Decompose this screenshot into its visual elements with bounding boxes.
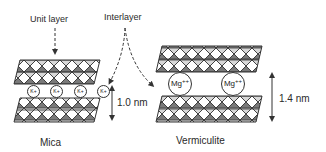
vermiculite-lower-layer [156,96,262,122]
vermiculite-spacing-arrow [269,72,275,122]
vermiculite-upper-layer [156,46,262,72]
vermiculite-spacing-label: 1.4 nm [279,93,310,104]
interlayer-arrow-right [125,28,152,85]
vermiculite-label: Vermiculite [176,135,225,146]
mica-lower-layer [14,98,100,122]
magnesium-ion: Mg++ [221,72,245,96]
mica-label: Mica [40,137,61,148]
magnesium-ion: Mg++ [168,72,192,96]
interlayer-arrow-left [110,28,125,82]
mica-spacing-label: 1.0 nm [117,97,148,108]
potassium-ion: K+ [50,85,63,98]
potassium-ion: K+ [74,85,87,98]
potassium-ion: K+ [27,85,40,98]
mica-upper-layer [14,60,100,84]
unit-layer-label: Unit layer [30,14,68,24]
interlayer-label: Interlayer [104,12,142,22]
potassium-ion: K+ [97,85,110,98]
